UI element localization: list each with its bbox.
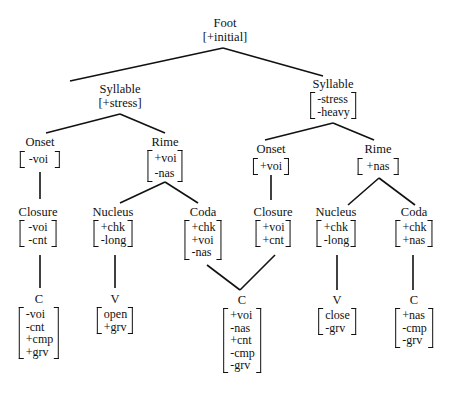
feature: +cmp	[26, 333, 53, 346]
feature-matrix: +chk -long	[94, 220, 132, 247]
feature-matrix: +chk -long	[317, 220, 355, 247]
feature-matrix: +voi	[253, 158, 289, 175]
node-rime-1: Rime +voi -nas	[147, 135, 182, 182]
feature-bracket-inline: [+stress]	[98, 96, 141, 110]
node-c-1: C -voi -cnt +cmp +grv	[19, 292, 59, 360]
node-label: C	[223, 293, 261, 307]
node-label: Rime	[358, 142, 399, 156]
node-coda-2: Coda +chk +nas	[395, 205, 432, 248]
node-label: V	[318, 293, 356, 307]
node-syllable-1: Syllable [+stress]	[98, 82, 141, 110]
feature: -stress	[317, 93, 350, 106]
node-label: Foot	[203, 16, 248, 30]
feature-matrix: +chk +nas	[395, 220, 432, 247]
edge-foot-syllable2	[223, 48, 323, 76]
feature: -long	[101, 234, 126, 247]
edge-rime2-coda2	[379, 178, 415, 205]
edge-rime1-coda1	[165, 182, 198, 203]
node-label: Nucleus	[93, 205, 134, 219]
edge-foot-syllable1	[70, 48, 223, 81]
feature: open	[104, 308, 127, 321]
feature: +nas	[402, 309, 427, 322]
feature-matrix: +voi -nas	[147, 150, 182, 182]
feature-matrix: -stress -heavy	[310, 92, 356, 119]
feature: +nas	[367, 160, 390, 173]
feature-bracket-inline: [+initial]	[203, 30, 248, 44]
feature: -nas	[191, 246, 215, 259]
node-v-1: V open +grv	[97, 292, 133, 335]
feature: close	[325, 309, 350, 322]
node-c-3: C +nas -cmp -grv	[395, 293, 433, 348]
feature-matrix: +voi +cnt	[255, 220, 290, 247]
node-closure-2: Closure +voi +cnt	[254, 205, 293, 248]
node-coda-1: Coda +chk +voi -nas	[184, 205, 221, 260]
node-onset-2: Onset +voi	[253, 142, 289, 175]
node-label: Syllable	[98, 82, 141, 96]
node-rime-2: Rime +nas	[358, 142, 399, 175]
node-label: Rime	[147, 135, 182, 149]
node-label: V	[97, 292, 133, 306]
feature: +nas	[402, 234, 426, 247]
node-label: Nucleus	[316, 205, 357, 219]
feature-matrix: +chk +voi -nas	[184, 220, 221, 260]
feature: -heavy	[317, 106, 350, 119]
feature: -cnt	[28, 234, 47, 247]
feature: -voi	[26, 308, 53, 321]
node-label: Closure	[254, 205, 293, 219]
edge-syllable2-onset2	[265, 123, 333, 140]
feature-matrix: -voi -cnt +cmp +grv	[19, 307, 59, 359]
feature-matrix: close -grv	[318, 308, 356, 335]
node-v-2: V close -grv	[318, 293, 356, 336]
feature: -grv	[230, 359, 255, 372]
feature: -long	[324, 234, 349, 247]
feature: -voi	[29, 153, 48, 166]
feature: +voi	[154, 151, 176, 166]
node-nucleus-2: Nucleus +chk -long	[316, 205, 357, 248]
feature: -nas	[154, 166, 176, 181]
feature: +grv	[26, 346, 53, 359]
node-nucleus-1: Nucleus +chk -long	[93, 205, 134, 248]
feature-matrix: -voi -cnt	[19, 220, 56, 247]
feature: +voi	[262, 221, 284, 234]
edge-coda1-c2	[207, 265, 240, 290]
feature: +chk	[101, 221, 126, 234]
node-onset-1: Onset -voi	[20, 135, 60, 168]
edge-rime1-nucleus1	[120, 182, 165, 203]
feature-matrix: open +grv	[97, 307, 133, 334]
node-label: Closure	[19, 205, 58, 219]
feature: +cnt	[262, 234, 284, 247]
node-label: Syllable	[310, 77, 356, 91]
feature: -grv	[402, 334, 427, 347]
feature: +grv	[104, 321, 127, 334]
feature: +chk	[324, 221, 349, 234]
node-closure-1: Closure -voi -cnt	[19, 205, 58, 248]
edge-syllable2-rime2	[333, 123, 374, 140]
node-label: Onset	[20, 135, 60, 149]
node-label: C	[395, 293, 433, 307]
node-label: C	[19, 292, 59, 306]
node-syllable-2: Syllable -stress -heavy	[310, 77, 356, 120]
feature-matrix: -voi	[20, 151, 60, 168]
node-label: Onset	[253, 142, 289, 156]
node-foot: Foot [+initial]	[203, 16, 248, 44]
edge-closure2-c2	[240, 255, 275, 290]
node-label: Coda	[395, 205, 432, 219]
feature: -voi	[28, 221, 47, 234]
feature: +chk	[402, 221, 426, 234]
feature-matrix: +voi -nas +cnt -cmp -grv	[223, 308, 261, 373]
feature: +cnt	[230, 334, 255, 347]
node-label: Coda	[184, 205, 221, 219]
edge-rime2-nucleus2	[348, 178, 379, 205]
feature: -grv	[325, 322, 350, 335]
feature: +chk	[191, 221, 215, 234]
feature: +voi	[260, 160, 282, 173]
feature-matrix: +nas -cmp -grv	[395, 308, 433, 348]
feature-matrix: +nas	[358, 158, 399, 175]
node-c-2: C +voi -nas +cnt -cmp -grv	[223, 293, 261, 373]
edge-syllable1-onset1	[46, 114, 120, 133]
feature: +voi	[230, 309, 255, 322]
edge-syllable1-rime1	[120, 114, 165, 133]
